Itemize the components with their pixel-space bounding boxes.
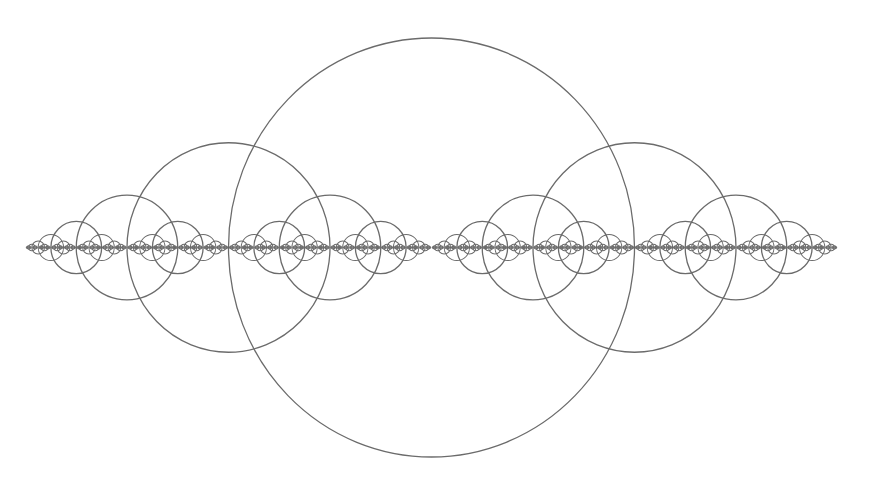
circle-group (26, 38, 836, 457)
fractal-circle-diagram (0, 0, 872, 483)
